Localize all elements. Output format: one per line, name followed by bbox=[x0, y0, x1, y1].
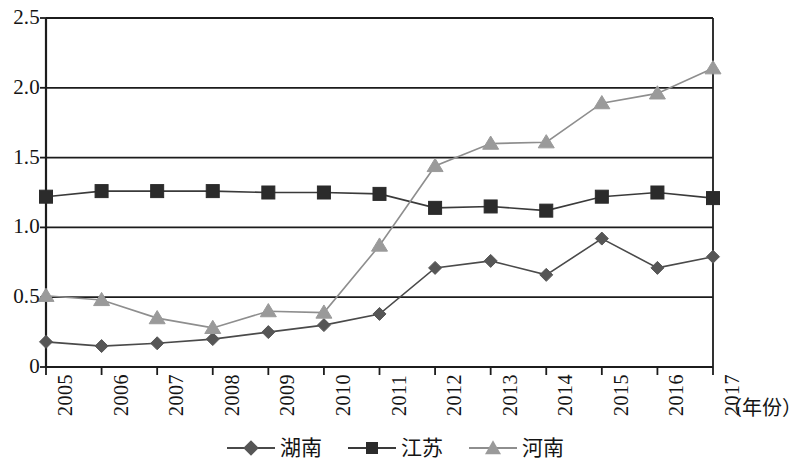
data-point-triangle bbox=[483, 136, 499, 149]
legend-marker-diamond-icon bbox=[243, 440, 259, 456]
line-chart: 00.51.01.52.02.5 20052006200720082009201… bbox=[0, 0, 791, 470]
y-axis-tick-label: 2.5 bbox=[13, 7, 40, 28]
data-point-diamond bbox=[651, 261, 664, 274]
data-point-square bbox=[373, 187, 386, 200]
data-point-diamond bbox=[595, 232, 608, 245]
y-axis-tick-label: 0.5 bbox=[13, 286, 40, 307]
data-point-square bbox=[651, 186, 664, 199]
data-point-square bbox=[595, 190, 608, 203]
data-point-square bbox=[540, 204, 553, 217]
data-point-triangle bbox=[149, 311, 165, 324]
x-axis-title: （年份） bbox=[722, 398, 791, 418]
x-axis-tick-label: 2011 bbox=[389, 375, 409, 416]
data-point-triangle bbox=[705, 61, 721, 74]
data-point-diamond bbox=[206, 333, 219, 346]
legend-item[interactable]: 湖南 bbox=[227, 437, 322, 458]
data-point-triangle bbox=[372, 238, 388, 251]
data-point-square bbox=[484, 200, 497, 213]
x-axis-tick-label: 2007 bbox=[166, 374, 186, 416]
legend-label: 江苏 bbox=[401, 437, 443, 458]
data-point-triangle bbox=[38, 288, 54, 301]
x-axis-tick-label: 2009 bbox=[277, 374, 297, 416]
data-point-triangle bbox=[260, 304, 276, 317]
legend-label: 河南 bbox=[522, 437, 564, 458]
data-point-diamond bbox=[40, 335, 53, 348]
data-point-diamond bbox=[707, 250, 720, 263]
data-point-diamond bbox=[95, 340, 108, 353]
data-point-square bbox=[262, 186, 275, 199]
x-axis-tick-label: 2010 bbox=[333, 374, 353, 416]
legend-item[interactable]: 河南 bbox=[469, 437, 564, 458]
legend-symbol-diamond-icon bbox=[227, 438, 275, 458]
x-axis-tick-label: 2014 bbox=[555, 374, 575, 416]
chart-legend: 湖南江苏河南 bbox=[0, 437, 791, 458]
data-point-square bbox=[206, 185, 219, 198]
legend-marker-triangle-icon bbox=[485, 440, 501, 454]
legend-symbol-square-icon bbox=[348, 438, 396, 458]
data-point-diamond bbox=[262, 326, 275, 339]
x-axis-tick-label: 2012 bbox=[444, 374, 464, 416]
data-point-diamond bbox=[317, 319, 330, 332]
x-axis-tick-label: 2008 bbox=[222, 374, 242, 416]
legend-label: 湖南 bbox=[280, 437, 322, 458]
x-axis-tick-label: 2016 bbox=[666, 374, 686, 416]
x-axis-tick-label: 2005 bbox=[55, 374, 75, 416]
y-axis-tick-label: 1.0 bbox=[13, 216, 40, 237]
y-axis-tick-label: 2.0 bbox=[13, 77, 40, 98]
data-point-diamond bbox=[540, 268, 553, 281]
data-point-square bbox=[317, 186, 330, 199]
data-point-square bbox=[429, 201, 442, 214]
data-point-diamond bbox=[484, 254, 497, 267]
data-point-square bbox=[40, 190, 53, 203]
data-point-diamond bbox=[151, 337, 164, 350]
legend-item[interactable]: 江苏 bbox=[348, 437, 443, 458]
y-axis-tick-label: 0 bbox=[29, 356, 40, 377]
legend-symbol-triangle-icon bbox=[469, 438, 517, 458]
x-axis-tick-label: 2015 bbox=[611, 374, 631, 416]
data-point-square bbox=[707, 192, 720, 205]
y-axis-tick-labels: 00.51.01.52.02.5 bbox=[0, 0, 40, 470]
x-axis-tick-label: 2006 bbox=[111, 374, 131, 416]
legend-marker-square-icon bbox=[366, 442, 378, 454]
data-point-triangle bbox=[538, 135, 554, 148]
data-point-square bbox=[151, 185, 164, 198]
data-point-triangle bbox=[427, 158, 443, 171]
x-axis-tick-label: 2013 bbox=[500, 374, 520, 416]
y-axis-tick-label: 1.5 bbox=[13, 147, 40, 168]
series-line-0 bbox=[46, 239, 713, 347]
data-point-square bbox=[95, 185, 108, 198]
